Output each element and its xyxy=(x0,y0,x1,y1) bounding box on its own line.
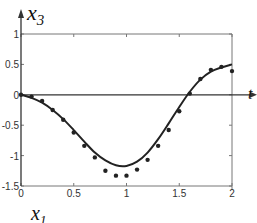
data-point xyxy=(29,94,33,98)
x-tick-label: 0 xyxy=(18,188,24,199)
data-point xyxy=(209,68,213,72)
y-axis-label: x3 xyxy=(26,0,44,28)
data-point xyxy=(198,77,202,81)
bottom-label: x1 xyxy=(30,202,46,223)
data-point xyxy=(156,144,160,148)
data-point xyxy=(188,91,192,95)
y-axis-arrow-icon xyxy=(18,9,24,18)
y-tick-label: 0 xyxy=(13,90,19,101)
data-point xyxy=(145,158,149,162)
data-point xyxy=(135,167,139,171)
data-point xyxy=(19,93,23,97)
data-point xyxy=(61,118,65,122)
data-series xyxy=(19,64,234,177)
data-point xyxy=(40,99,44,103)
y-tick-label: -1.5 xyxy=(2,181,20,192)
data-point xyxy=(103,169,107,173)
data-point xyxy=(114,173,118,177)
x-tick-label: 0.5 xyxy=(67,188,81,199)
x-tick-label: 1.5 xyxy=(172,188,186,199)
chart: 00.511.5210.50-0.5-1-1.5 x3 t x1 xyxy=(0,0,257,223)
y-tick-label: -0.5 xyxy=(2,120,20,131)
data-point xyxy=(72,130,76,134)
data-point xyxy=(167,128,171,132)
data-point xyxy=(230,69,234,73)
x-tick-label: 2 xyxy=(229,188,235,199)
x-tick-label: 1 xyxy=(124,188,130,199)
data-point xyxy=(50,108,54,112)
axis-labels: x3 t x1 xyxy=(26,0,253,223)
y-tick-label: -1 xyxy=(10,151,19,162)
data-point xyxy=(124,173,128,177)
data-point xyxy=(93,155,97,159)
data-point xyxy=(219,65,223,69)
data-point xyxy=(177,109,181,113)
y-tick-label: 0.5 xyxy=(5,59,19,70)
axis-ticks: 00.511.5210.50-0.5-1-1.5 xyxy=(2,29,235,199)
data-point xyxy=(82,144,86,148)
x-axis-label: t xyxy=(248,85,253,102)
y-tick-label: 1 xyxy=(13,29,19,40)
axes xyxy=(18,9,257,186)
